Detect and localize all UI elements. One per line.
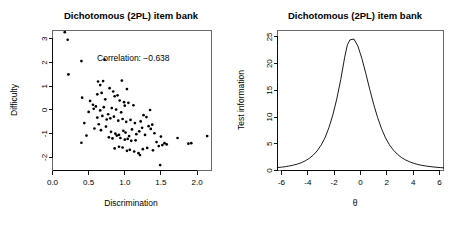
scatter-point xyxy=(99,109,102,112)
scatter-point xyxy=(155,141,158,144)
scatter-point xyxy=(190,142,193,145)
scatter-point xyxy=(145,116,148,119)
x-tick-label: 0.0 xyxy=(47,178,59,187)
scatter-point xyxy=(109,117,112,120)
scatter-point xyxy=(80,141,83,144)
scatter-point xyxy=(121,146,124,149)
scatter-point xyxy=(93,127,96,130)
scatter-plot-box xyxy=(53,31,212,171)
panel-scatter-item-bank: Dichotomous (2PL) item bank 0.00.51.01.5… xyxy=(0,0,229,227)
scatter-x-axis-label: Discrimination xyxy=(104,198,158,208)
test-information-curve xyxy=(278,39,444,168)
scatter-point xyxy=(146,147,149,150)
line-y-axis: 0510152025 xyxy=(265,32,278,173)
scatter-point xyxy=(134,139,137,142)
scatter-point xyxy=(128,135,131,138)
scatter-point xyxy=(126,88,129,91)
scatter-point xyxy=(116,94,119,97)
figure-canvas: Dichotomous (2PL) item bank 0.00.51.01.5… xyxy=(0,0,459,227)
scatter-point xyxy=(102,80,105,83)
scatter-point xyxy=(139,120,142,123)
line-y-axis-label: Test information xyxy=(236,70,246,130)
scatter-point xyxy=(141,126,144,129)
scatter-point xyxy=(144,134,147,137)
scatter-point xyxy=(108,87,111,90)
scatter-point xyxy=(160,135,163,138)
scatter-point xyxy=(149,128,152,131)
scatter-point xyxy=(67,73,70,76)
scatter-point xyxy=(176,137,179,140)
scatter-point xyxy=(159,164,162,167)
scatter-point xyxy=(66,38,69,41)
scatter-point xyxy=(126,138,129,141)
scatter-point xyxy=(157,145,160,148)
scatter-plot-svg: Dichotomous (2PL) item bank 0.00.51.01.5… xyxy=(0,0,229,227)
scatter-point xyxy=(206,135,209,138)
scatter-point xyxy=(97,80,100,83)
scatter-point xyxy=(92,103,95,106)
scatter-point xyxy=(81,96,84,99)
scatter-point xyxy=(118,99,121,102)
scatter-point xyxy=(113,147,116,150)
scatter-point xyxy=(128,149,131,152)
scatter-point xyxy=(121,79,124,82)
scatter-point xyxy=(63,31,66,34)
scatter-point xyxy=(125,121,128,124)
scatter-point xyxy=(96,93,99,96)
scatter-y-axis-label: Difficulty xyxy=(9,83,19,116)
y-tick-label: 0 xyxy=(40,107,49,112)
y-tick-label: 15 xyxy=(265,85,274,94)
scatter-point xyxy=(127,102,130,105)
scatter-point xyxy=(122,130,125,133)
x-tick-label: -4 xyxy=(304,178,312,187)
line-plot-svg: Dichotomous (2PL) item bank -6-4-20246 0… xyxy=(229,0,459,227)
y-tick-label: 10 xyxy=(265,112,274,121)
y-tick-label: 1 xyxy=(40,83,49,88)
scatter-point xyxy=(104,98,107,101)
scatter-point xyxy=(80,60,83,63)
x-tick-label: 6 xyxy=(437,178,442,187)
scatter-point xyxy=(151,123,154,126)
scatter-point xyxy=(141,148,144,151)
scatter-point xyxy=(105,125,108,128)
scatter-point xyxy=(87,111,90,114)
scatter-point xyxy=(123,138,126,141)
scatter-point xyxy=(123,104,126,107)
scatter-point xyxy=(99,84,102,87)
y-tick-label: -1 xyxy=(40,130,49,138)
scatter-point xyxy=(115,134,118,137)
scatter-point xyxy=(108,136,111,139)
scatter-point xyxy=(132,104,135,107)
scatter-point xyxy=(119,137,122,140)
y-tick-label: 5 xyxy=(265,141,274,146)
scatter-point xyxy=(111,137,114,140)
scatter-point xyxy=(153,132,156,135)
scatter-point xyxy=(101,115,104,118)
y-tick-label: -2 xyxy=(40,153,49,161)
scatter-point xyxy=(126,149,129,152)
scatter-point xyxy=(147,125,150,128)
line-x-axis-label: θ xyxy=(353,198,358,208)
scatter-point xyxy=(115,108,118,111)
scatter-points-group xyxy=(63,31,208,167)
scatter-point xyxy=(118,145,121,148)
scatter-point xyxy=(187,142,190,145)
x-tick-label: -2 xyxy=(331,178,339,187)
y-tick-label: 25 xyxy=(265,32,274,41)
line-plot-box xyxy=(278,31,444,171)
panel-test-information: Dichotomous (2PL) item bank -6-4-20246 0… xyxy=(229,0,459,227)
x-tick-label: 2 xyxy=(385,178,390,187)
scatter-y-axis: -2-10123 xyxy=(40,36,53,161)
scatter-point xyxy=(113,115,116,118)
scatter-point xyxy=(85,134,88,137)
x-tick-label: 1.5 xyxy=(155,178,167,187)
scatter-point xyxy=(133,150,136,153)
y-tick-label: 20 xyxy=(265,59,274,68)
scatter-point xyxy=(123,101,126,104)
x-tick-label: 4 xyxy=(411,178,416,187)
scatter-point xyxy=(124,131,127,134)
scatter-point xyxy=(100,92,103,95)
scatter-point xyxy=(129,119,132,122)
scatter-point xyxy=(112,90,115,93)
scatter-point xyxy=(120,111,123,114)
